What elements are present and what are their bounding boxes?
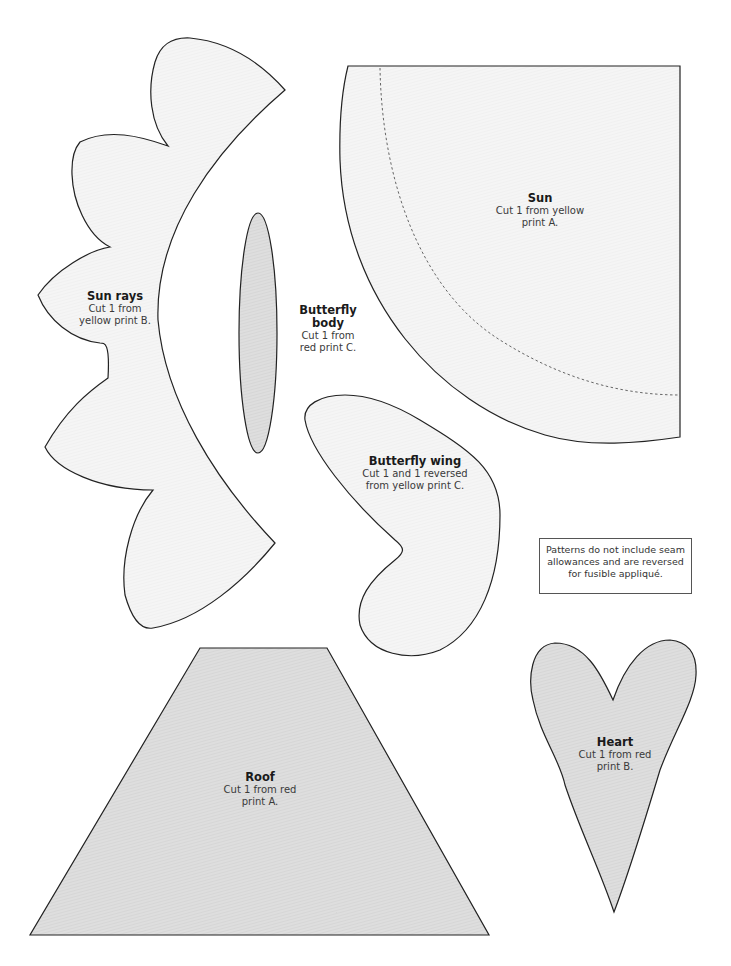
roof-label: Roof Cut 1 from red print A. (205, 771, 315, 808)
butterfly-body-label: Butterfly body Cut 1 from red print C. (283, 304, 373, 354)
sun-instruction-2: print A. (480, 217, 600, 229)
butterfly-wing-shape (305, 395, 500, 656)
sun-rays-instruction-1: Cut 1 from (60, 303, 170, 315)
sun-rays-label: Sun rays Cut 1 from yellow print B. (60, 290, 170, 327)
heart-shape (531, 640, 696, 912)
butterfly-wing-instruction-2: from yellow print C. (350, 480, 480, 492)
roof-instruction-1: Cut 1 from red (205, 784, 315, 796)
butterfly-wing-instruction-1: Cut 1 and 1 reversed (350, 468, 480, 480)
sun-rays-instruction-2: yellow print B. (60, 315, 170, 327)
sun-title: Sun (480, 192, 600, 205)
butterfly-wing-label: Butterfly wing Cut 1 and 1 reversed from… (350, 455, 480, 492)
roof-title: Roof (205, 771, 315, 784)
roof-instruction-2: print A. (205, 796, 315, 808)
butterfly-body-title-2: body (283, 317, 373, 330)
heart-label: Heart Cut 1 from red print B. (565, 736, 665, 773)
sun-instruction-1: Cut 1 from yellow (480, 205, 600, 217)
note-line-2: allowances and are reversed (540, 556, 691, 568)
sun-rays-title: Sun rays (60, 290, 170, 303)
seam-allowance-note: Patterns do not include seam allowances … (539, 538, 692, 594)
sun-shape (340, 66, 680, 443)
butterfly-wing-title: Butterfly wing (350, 455, 480, 468)
heart-title: Heart (565, 736, 665, 749)
heart-instruction-2: print B. (565, 761, 665, 773)
butterfly-body-shape (239, 213, 277, 453)
note-line-3: for fusible appliqué. (540, 568, 691, 580)
note-line-1: Patterns do not include seam (540, 544, 691, 556)
sun-label: Sun Cut 1 from yellow print A. (480, 192, 600, 229)
butterfly-body-instruction-1: Cut 1 from (283, 330, 373, 342)
butterfly-body-instruction-2: red print C. (283, 342, 373, 354)
heart-instruction-1: Cut 1 from red (565, 749, 665, 761)
